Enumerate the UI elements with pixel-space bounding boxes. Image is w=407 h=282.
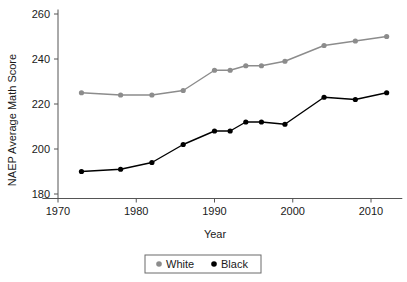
y-tick-label: 220 [32, 98, 50, 110]
data-point-black [282, 122, 287, 127]
data-point-black [181, 142, 186, 147]
data-point-black [353, 97, 358, 102]
data-point-white [228, 68, 233, 73]
data-point-black [384, 90, 389, 95]
legend-label-black: Black [221, 258, 248, 270]
legend-marker-black [211, 261, 217, 267]
x-axis: 19701980199020002010 [42, 199, 402, 217]
x-tick-label: 2010 [359, 205, 383, 217]
x-tick-label: 2000 [281, 205, 305, 217]
legend-marker-white [156, 261, 162, 267]
data-point-white [384, 34, 389, 39]
chart-figure: NAEP Average Math Score Year 18020022024… [0, 0, 407, 282]
data-point-black [149, 160, 154, 165]
y-axis-title: NAEP Average Math Score [6, 54, 18, 186]
series-line-white [81, 37, 386, 96]
data-point-white [118, 92, 123, 97]
data-point-white [149, 92, 154, 97]
x-axis-title: Year [204, 228, 227, 240]
x-tick-label: 1970 [46, 205, 70, 217]
data-point-black [321, 95, 326, 100]
data-point-white [259, 63, 264, 68]
y-tick-label: 260 [32, 8, 50, 20]
x-tick-label: 1980 [124, 205, 148, 217]
plot-series-group [79, 34, 389, 174]
data-point-white [79, 90, 84, 95]
y-tick-label: 200 [32, 143, 50, 155]
data-point-white [212, 68, 217, 73]
y-tick-label: 240 [32, 53, 50, 65]
data-point-black [243, 119, 248, 124]
data-point-white [282, 59, 287, 64]
data-point-white [353, 38, 358, 43]
data-point-white [181, 88, 186, 93]
data-point-white [243, 63, 248, 68]
legend-label-white: White [166, 258, 194, 270]
x-tick-label: 1990 [202, 205, 226, 217]
data-point-black [79, 169, 84, 174]
data-point-black [228, 128, 233, 133]
data-point-black [118, 167, 123, 172]
data-point-black [259, 119, 264, 124]
series-line-black [81, 93, 386, 172]
line-chart: NAEP Average Math Score Year 18020022024… [0, 0, 407, 282]
data-point-white [321, 43, 326, 48]
y-axis: 180200220240260 [32, 8, 58, 200]
chart-legend: WhiteBlack [145, 255, 261, 273]
data-point-black [212, 128, 217, 133]
